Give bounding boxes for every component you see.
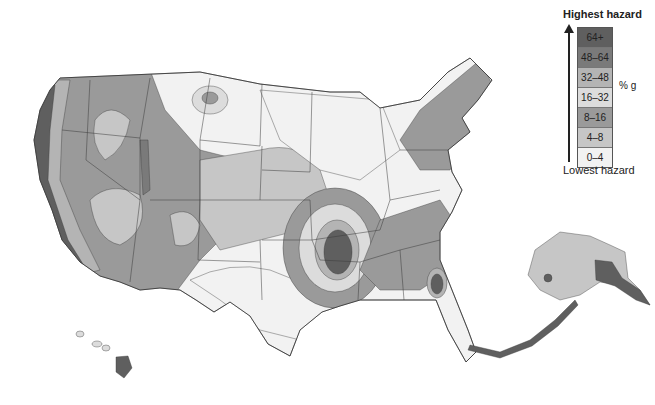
legend-top-label: Highest hazard bbox=[563, 8, 642, 20]
alaska-spot bbox=[544, 274, 552, 282]
legend-unit: % g bbox=[619, 80, 636, 91]
legend-class: 64+ bbox=[578, 28, 612, 48]
legend-arrow-shaft bbox=[568, 26, 570, 162]
hawaii-big-island bbox=[116, 356, 132, 378]
legend-class: 4–8 bbox=[578, 128, 612, 148]
legend-class: 48–64 bbox=[578, 48, 612, 68]
alaska-aleutians bbox=[468, 300, 578, 358]
zone-yellowstone-core bbox=[202, 92, 218, 104]
legend: Highest hazard 64+ 48–64 32–48 16–32 8–1… bbox=[530, 8, 655, 178]
zone-charleston-core bbox=[431, 274, 443, 294]
legend-class: 32–48 bbox=[578, 68, 612, 88]
legend-scale: 64+ 48–64 32–48 16–32 8–16 4–8 0–4 bbox=[577, 27, 613, 168]
zone-new-madrid-core bbox=[324, 230, 352, 274]
hawaii bbox=[76, 331, 132, 378]
legend-bottom-label: Lowest hazard bbox=[563, 164, 635, 176]
legend-class: 16–32 bbox=[578, 88, 612, 108]
legend-class: 8–16 bbox=[578, 108, 612, 128]
